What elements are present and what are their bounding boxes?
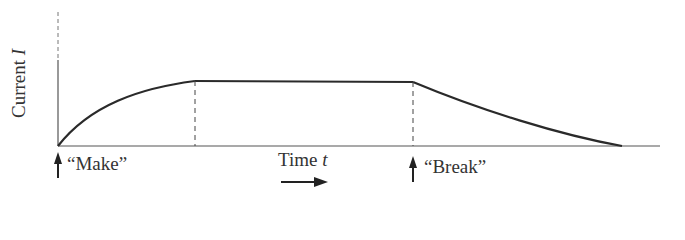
break-arrow-icon	[409, 156, 417, 182]
decay-curve	[413, 82, 622, 146]
rise-curve	[58, 81, 195, 146]
steady-line	[195, 81, 413, 82]
x-axis-label: Time t	[278, 149, 327, 171]
make-arrow-icon	[54, 152, 62, 178]
make-label: “Make”	[67, 153, 127, 175]
time-direction-arrow-icon	[281, 177, 328, 187]
y-axis-label: Current I	[8, 49, 30, 118]
break-label: “Break”	[424, 156, 486, 178]
